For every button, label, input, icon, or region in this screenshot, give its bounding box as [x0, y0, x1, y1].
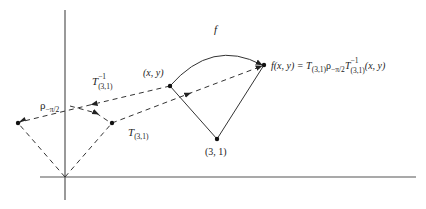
f-arc — [170, 55, 262, 86]
T-inverse-sup: −1 — [98, 73, 112, 81]
T-sub: (3,1) — [134, 132, 148, 141]
formula-T1: T — [306, 60, 312, 71]
point-rotated — [110, 121, 114, 125]
center-label: (3, 1) — [205, 147, 227, 157]
formula-rho-sub: −π/2 — [331, 65, 345, 74]
rho-label: ρ−π/2 — [40, 100, 59, 111]
xy-label: (x, y) — [143, 68, 164, 78]
origin-to-translated — [18, 123, 65, 177]
T-inverse-sub: (3,1) — [98, 83, 112, 91]
rho-sub: −π/2 — [46, 105, 60, 114]
composition-diagram — [0, 0, 426, 209]
point-image — [262, 63, 266, 67]
segment-center-to-image — [217, 65, 264, 139]
point-center — [215, 137, 219, 141]
formula-args: (x, y) — [365, 60, 386, 71]
point-translated — [16, 121, 20, 125]
formula-label: f(x, y) = T(3,1)ρ−π/2T−1(3,1)(x, y) — [271, 59, 385, 74]
formula-T2-sup: −1 — [350, 57, 364, 65]
T-inverse-label: T−1(3,1) — [92, 75, 113, 90]
segment-xy-to-center — [170, 86, 217, 139]
rho-path — [70, 106, 111, 123]
origin-to-rotated — [65, 123, 112, 177]
rho-base: ρ — [40, 99, 46, 111]
T-inverse-scripts: −1(3,1) — [98, 75, 112, 90]
formula-T2-sub: (3,1) — [350, 67, 364, 75]
formula-T2-scripts: −1(3,1) — [350, 59, 364, 74]
formula-lhs: f(x, y) = — [271, 60, 306, 71]
f-label: f — [214, 24, 217, 35]
point-xy — [168, 84, 172, 88]
T-label: T(3,1) — [128, 127, 149, 138]
formula-T1-sub: (3,1) — [312, 65, 326, 74]
